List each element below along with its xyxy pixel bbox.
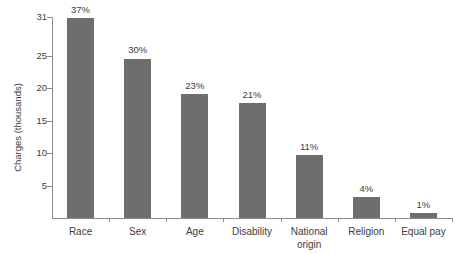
y-axis-tick-label: 25 — [9, 50, 47, 61]
bar — [124, 59, 151, 219]
x-axis-tick-mark — [452, 218, 453, 222]
y-axis-tick-label: 20 — [9, 82, 47, 93]
x-axis-category-label: Age — [163, 226, 227, 239]
x-axis-category-label: Race — [49, 226, 113, 239]
y-axis-tick-label-wrap: 5 — [0, 186, 47, 187]
x-axis-category-label: Equal pay — [391, 226, 455, 239]
x-axis-category-label: Disability — [220, 226, 284, 239]
x-axis-tick-mark — [166, 218, 167, 222]
bar — [239, 103, 266, 218]
y-axis-tick-label-wrap: 25 — [0, 56, 47, 57]
y-axis-line — [52, 17, 53, 219]
x-axis-tick-mark — [395, 218, 396, 222]
x-axis-category-label: Religion — [334, 226, 398, 239]
bar-value-label: 1% — [393, 199, 453, 210]
x-axis-tick-mark — [338, 218, 339, 222]
bar — [410, 213, 437, 218]
bar — [67, 18, 94, 218]
x-axis-line — [52, 218, 452, 219]
bar-value-label: 4% — [336, 183, 396, 194]
x-axis-tick-mark — [281, 218, 282, 222]
y-axis-tick-label-wrap: 15 — [0, 121, 47, 122]
y-axis-tick-label-wrap: 31 — [0, 17, 47, 18]
bar-value-label: 23% — [165, 80, 225, 91]
bar-value-label: 21% — [222, 89, 282, 100]
y-axis-tick-label: 31 — [9, 11, 47, 22]
x-axis-category-label: National origin — [277, 226, 341, 251]
y-axis-tick-mark — [47, 153, 52, 154]
bar-value-label: 37% — [51, 4, 111, 15]
y-axis-tick-label: 15 — [9, 115, 47, 126]
y-axis-tick-label-wrap: 20 — [0, 88, 47, 89]
y-axis-tick-mark — [47, 17, 52, 18]
y-axis-tick-mark — [47, 88, 52, 89]
bar — [353, 197, 380, 218]
bar — [181, 94, 208, 218]
y-axis-tick-label-wrap: 10 — [0, 153, 47, 154]
y-axis-tick-label: 10 — [9, 147, 47, 158]
y-axis-tick-label: 5 — [9, 180, 47, 191]
bar — [296, 155, 323, 218]
x-axis-category-label: Sex — [106, 226, 170, 239]
y-axis-tick-mark — [47, 121, 52, 122]
bar-chart-figure: Charges (thousands) 51015202531 37%30%23… — [0, 0, 471, 254]
x-axis-tick-mark — [223, 218, 224, 222]
bar-value-label: 30% — [108, 44, 168, 55]
bar-value-label: 11% — [279, 141, 339, 152]
y-axis-tick-mark — [47, 56, 52, 57]
y-axis-tick-mark — [47, 186, 52, 187]
x-axis-tick-mark — [109, 218, 110, 222]
